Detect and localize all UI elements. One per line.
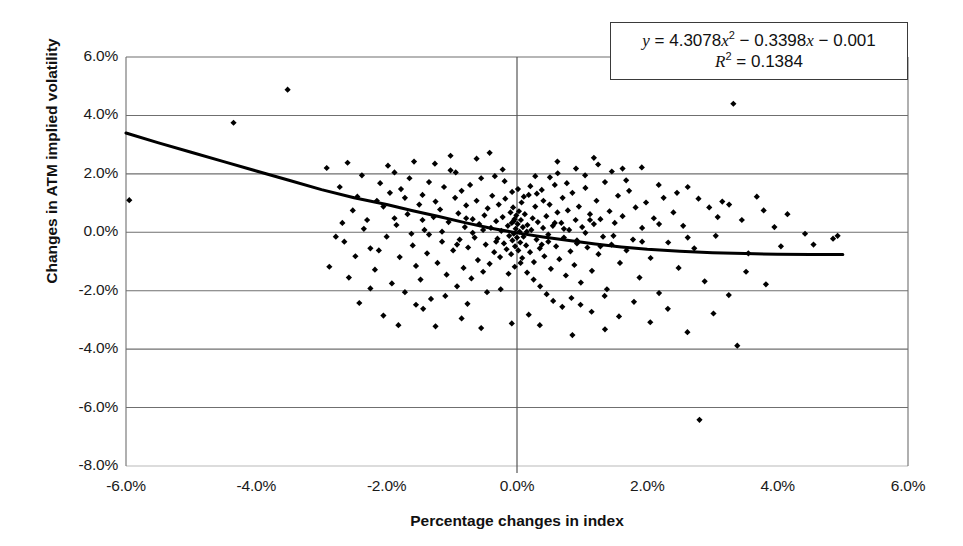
equation-x-variable-linear: x: [806, 31, 814, 50]
x-tick-label: 2.0%: [597, 477, 697, 495]
x-tick-label: 0.0%: [467, 477, 567, 495]
x-tick-label: -2.0%: [337, 477, 437, 495]
equation-exponent: 2: [729, 29, 735, 41]
y-tick-label: -6.0%: [30, 398, 118, 416]
equation-equals: =: [655, 31, 665, 50]
equation-term-c: − 0.001: [819, 31, 876, 50]
equation-coefficient-a: 4.3078: [669, 31, 721, 50]
equation-x-variable: x: [721, 31, 729, 50]
trendline-equation-text: y = 4.3078x2 − 0.3398x − 0.001: [642, 30, 876, 51]
equation-term-b: − 0.3398: [740, 31, 807, 50]
plot-canvas: [0, 0, 963, 546]
y-axis-title: Changes in ATM implied volatility: [43, 0, 61, 331]
equation-y-variable: y: [642, 31, 650, 50]
scatter-chart: 6.0%4.0%2.0%0.0%-2.0%-4.0%-6.0%-8.0% -6.…: [0, 0, 963, 546]
r-squared-equals: =: [736, 52, 746, 71]
y-tick-label: -4.0%: [30, 339, 118, 357]
trendline-equation-box: y = 4.3078x2 − 0.3398x − 0.001 R2 = 0.13…: [610, 22, 908, 80]
x-axis-title: Percentage changes in index: [126, 512, 908, 530]
r-squared-value: 0.1384: [751, 52, 803, 71]
y-tick-label: -8.0%: [30, 456, 118, 474]
x-tick-label: 4.0%: [728, 477, 828, 495]
x-tick-label: -4.0%: [206, 477, 306, 495]
r-squared-label: R: [715, 52, 725, 71]
r-squared-exponent: 2: [725, 50, 731, 62]
x-tick-label: -6.0%: [76, 477, 176, 495]
x-tick-label: 6.0%: [858, 477, 958, 495]
r-squared-text: R2 = 0.1384: [715, 51, 803, 72]
